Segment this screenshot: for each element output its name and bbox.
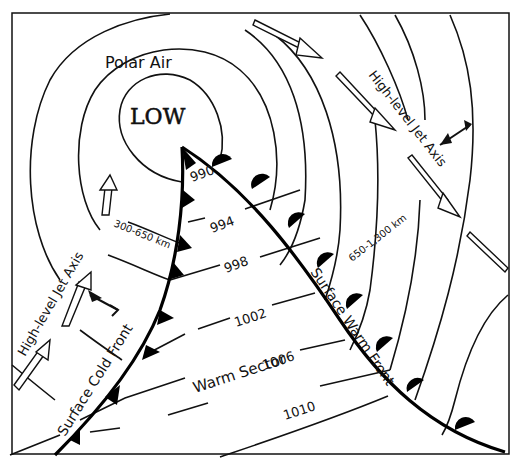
mid-latitude-cyclone-diagram: Polar Air LOW 990 994 998 1002 1006 1010… <box>0 0 521 467</box>
polar-air-label: Polar Air <box>105 53 172 72</box>
isobar-label-1002: 1002 <box>232 305 268 329</box>
warm-front-label: Surface Warm Front <box>308 265 399 389</box>
isobar-label-1010: 1010 <box>281 398 317 422</box>
isobar-label-994: 994 <box>208 213 236 236</box>
low-pressure-label: LOW <box>130 104 186 129</box>
flow-arrows <box>88 120 472 316</box>
jet-axis-arrows <box>14 20 508 390</box>
distance-left-label: 300-650 km <box>112 218 172 251</box>
warm-sector-label: Warm Sector <box>191 350 289 397</box>
cold-front-label: Surface Cold Front <box>54 320 136 438</box>
isobar-label-998: 998 <box>222 253 250 276</box>
